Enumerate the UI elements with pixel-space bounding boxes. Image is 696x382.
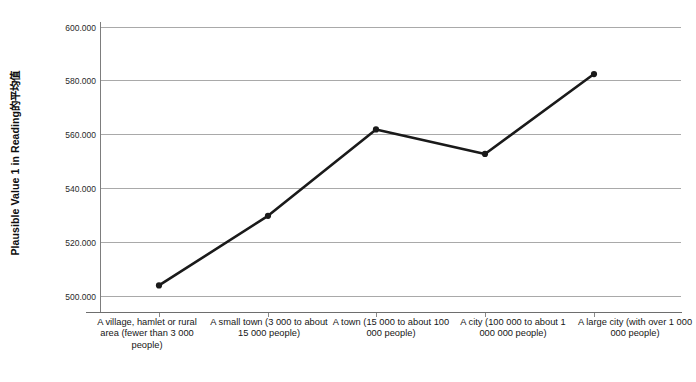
gridline: [101, 296, 681, 297]
x-category-label-1: A small town (3 000 to about 15 000 peop…: [208, 317, 330, 379]
gridline: [101, 188, 681, 189]
gridline: [101, 134, 681, 135]
x-axis-category-labels: A village, hamlet or rural area (fewer t…: [86, 317, 696, 379]
line-chart: Plausible Value 1 in Reading的平均值 600.000…: [0, 0, 696, 382]
x-category-label-4: A large city (with over 1 000 000 people…: [574, 317, 696, 379]
y-tick-label: 580.000: [34, 76, 96, 86]
y-tick-label: 500.000: [34, 292, 96, 302]
y-axis-title: Plausible Value 1 in Reading的平均值: [2, 18, 28, 308]
gridline: [101, 80, 681, 81]
y-tick-label: 520.000: [34, 238, 96, 248]
plot-area: [101, 27, 681, 298]
y-tick-label: 560.000: [34, 130, 96, 140]
gridline: [101, 27, 681, 28]
y-tick-label: 540.000: [34, 184, 96, 194]
x-category-label-2: A town (15 000 to about 100 000 people): [330, 317, 452, 379]
x-category-label-3: A city (100 000 to about 1 000 000 peopl…: [452, 317, 574, 379]
y-axis-tick-labels: 600.000 580.000 560.000 540.000 520.000 …: [28, 0, 96, 320]
x-axis-line: [86, 312, 682, 313]
x-category-label-0: A village, hamlet or rural area (fewer t…: [86, 317, 208, 379]
gridline: [101, 242, 681, 243]
y-tick-label: 600.000: [34, 23, 96, 33]
